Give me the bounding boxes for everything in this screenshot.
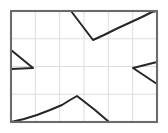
chart-plot-area bbox=[0, 0, 168, 133]
figure-root bbox=[0, 0, 168, 133]
